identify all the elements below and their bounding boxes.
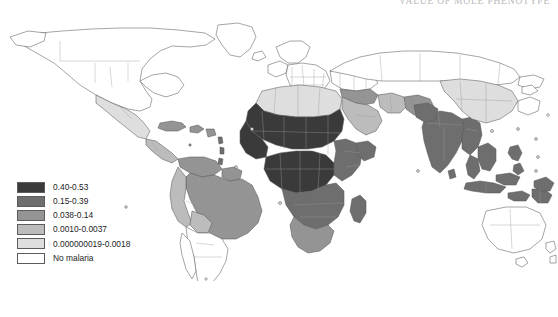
legend-swatch: [17, 238, 45, 249]
legend-label: No malaria: [53, 254, 94, 262]
figure-page: VALUE OF MOLE PHENOTYPE .ld { fill: #3a3…: [0, 0, 558, 317]
running-head: VALUE OF MOLE PHENOTYPE: [0, 0, 558, 11]
legend-item: No malaria: [17, 251, 177, 265]
legend-label: 0.038-0.14: [53, 211, 93, 219]
legend-label: 0.40-0.53: [53, 183, 88, 191]
legend-label: 0.15-0.39: [53, 197, 88, 205]
legend-swatch: [17, 210, 45, 221]
running-head-text: VALUE OF MOLE PHENOTYPE: [399, 0, 550, 6]
legend-swatch: [17, 182, 45, 193]
legend-swatch: [17, 224, 45, 235]
legend-item: 0.000000019-0.0018: [17, 237, 177, 251]
legend-item: 0.0010-0.0037: [17, 223, 177, 237]
legend-item: 0.15-0.39: [17, 194, 177, 208]
legend-item: 0.038-0.14: [17, 208, 177, 222]
map-legend: 0.40-0.53 0.15-0.39 0.038-0.14 0.0010-0.…: [17, 180, 177, 265]
legend-swatch: [17, 196, 45, 207]
legend-item: 0.40-0.53: [17, 180, 177, 194]
legend-label: 0.0010-0.0037: [53, 225, 107, 233]
legend-swatch: [17, 253, 45, 264]
legend-label: 0.000000019-0.0018: [53, 240, 130, 248]
